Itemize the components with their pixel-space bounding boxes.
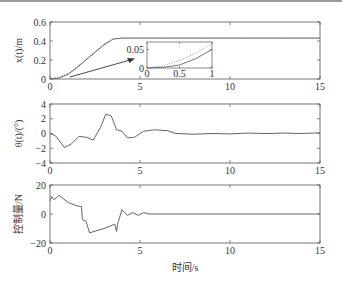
svg-text:−20: −20 xyxy=(30,238,46,249)
svg-text:控制量/N: 控制量/N xyxy=(12,194,24,234)
svg-text:0: 0 xyxy=(41,74,46,85)
svg-text:0.4: 0.4 xyxy=(34,36,47,47)
svg-text:x(t)/m: x(t)/m xyxy=(13,38,25,63)
svg-text:0.6: 0.6 xyxy=(34,17,47,28)
svg-text:15: 15 xyxy=(315,165,325,176)
svg-text:5: 5 xyxy=(138,245,143,256)
svg-text:5: 5 xyxy=(138,81,143,92)
svg-text:0: 0 xyxy=(48,81,53,92)
svg-text:2: 2 xyxy=(41,113,46,124)
svg-text:0.2: 0.2 xyxy=(34,55,47,66)
svg-text:10: 10 xyxy=(225,81,235,92)
series-control xyxy=(50,195,320,233)
svg-text:10: 10 xyxy=(225,165,235,176)
subplot-1: 05101500.20.40.6x(t)/m00.5100.05 xyxy=(13,17,325,93)
svg-text:20: 20 xyxy=(36,180,46,191)
inset-zoom: 00.5100.05 xyxy=(127,42,215,79)
svg-text:−2: −2 xyxy=(35,143,46,154)
svg-text:15: 15 xyxy=(315,81,325,92)
svg-text:0: 0 xyxy=(48,165,53,176)
svg-text:0: 0 xyxy=(145,68,150,79)
svg-text:0.05: 0.05 xyxy=(127,44,145,55)
svg-text:10: 10 xyxy=(225,245,235,256)
svg-text:0: 0 xyxy=(139,63,144,74)
svg-text:15: 15 xyxy=(315,245,325,256)
svg-text:4: 4 xyxy=(41,99,46,110)
svg-text:0: 0 xyxy=(41,209,46,220)
x-axis-label: 时间/s xyxy=(172,261,199,273)
svg-text:0.5: 0.5 xyxy=(173,68,186,79)
arrow-line xyxy=(70,60,130,77)
subplot-2: 051015−4−2024θ(t)/(°) xyxy=(13,99,325,177)
svg-text:1: 1 xyxy=(210,68,215,79)
series-theta xyxy=(50,114,320,147)
figure: 05101500.20.40.6x(t)/m00.5100.05051015−4… xyxy=(0,0,342,288)
subplot-3: 051015−20020控制量/N xyxy=(12,180,325,257)
svg-text:0: 0 xyxy=(48,245,53,256)
svg-text:−4: −4 xyxy=(35,158,46,169)
svg-text:0: 0 xyxy=(41,128,46,139)
svg-text:5: 5 xyxy=(138,165,143,176)
svg-text:θ(t)/(°): θ(t)/(°) xyxy=(13,120,25,148)
